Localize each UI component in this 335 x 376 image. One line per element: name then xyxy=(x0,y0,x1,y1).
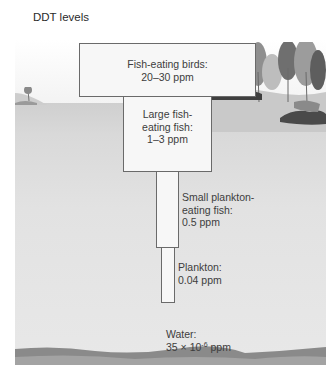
birds-label-line1: Fish-eating birds: xyxy=(80,58,255,71)
birds-label-line2: 20–30 ppm xyxy=(80,71,255,84)
small-fish-label-line2: eating fish: xyxy=(182,204,254,217)
water-value-unit: ppm xyxy=(208,341,231,353)
plankton-label: Plankton: 0.04 ppm xyxy=(178,261,222,286)
small-fish-label-line1: Small plankton- xyxy=(182,191,254,204)
water-label: Water: 35 × 10-6 ppm xyxy=(166,328,231,353)
plankton-label-line2: 0.04 ppm xyxy=(178,274,222,287)
large-fish-label-line1: Large fish- xyxy=(124,108,211,121)
plankton-label-line1: Plankton: xyxy=(178,261,222,274)
left-shore-tree-icon xyxy=(15,87,47,105)
water-label-line1: Water: xyxy=(166,328,231,341)
large-fish-label-line2: eating fish: xyxy=(124,121,211,134)
water-value-base: 35 × 10 xyxy=(166,341,201,353)
level-box-small-fish xyxy=(156,171,179,248)
level-box-large-fish: Large fish- eating fish: 1–3 ppm xyxy=(123,96,212,172)
large-fish-label-line3: 1–3 ppm xyxy=(124,133,211,146)
small-fish-label-line3: 0.5 ppm xyxy=(182,216,254,229)
level-box-fish-eating-birds: Fish-eating birds: 20–30 ppm xyxy=(79,43,256,97)
level-box-plankton xyxy=(161,247,175,303)
diagram-title: DDT levels xyxy=(33,11,89,23)
water-label-value: 35 × 10-6 ppm xyxy=(166,341,231,354)
small-fish-label: Small plankton- eating fish: 0.5 ppm xyxy=(182,191,254,229)
